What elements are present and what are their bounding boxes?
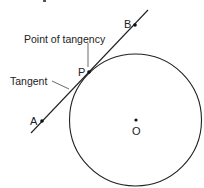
label-b: B (124, 18, 131, 30)
tangent-pointer-line (52, 81, 69, 89)
point-p-dot (87, 70, 91, 74)
label-p: P (78, 66, 85, 78)
cropped-text-fragment (43, 0, 46, 2)
label-o: O (132, 125, 141, 137)
center-o-dot (134, 118, 137, 121)
point-a-dot (40, 119, 44, 123)
label-point-of-tangency: Point of tangency (24, 33, 106, 45)
point-b-dot (133, 23, 137, 27)
tangent-diagram: B P A O Point of tangency Tangent (0, 0, 204, 188)
label-tangent: Tangent (10, 75, 47, 87)
label-a: A (30, 115, 38, 127)
